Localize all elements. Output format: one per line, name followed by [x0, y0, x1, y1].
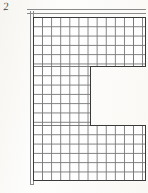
outline-top-edge	[33, 17, 146, 18]
grid-zone-middle-arm	[33, 66, 90, 126]
outline-notch-top-edge	[90, 66, 146, 67]
drawing-canvas: 2	[0, 0, 148, 193]
outline-right-lower-edge	[145, 125, 146, 181]
outline-right-upper-edge	[145, 17, 146, 67]
top-wall-outer-line	[27, 9, 146, 10]
left-wall-outer-line	[30, 11, 31, 185]
left-wall-foot-cap	[30, 184, 34, 185]
outline-left-edge	[33, 17, 34, 181]
outline-notch-left-edge	[90, 66, 91, 126]
outline-notch-bottom-edge	[90, 125, 146, 126]
figure-number-label: 2	[2, 1, 9, 13]
grid-zone-upper-band	[33, 17, 145, 67]
outline-bottom-edge	[33, 180, 146, 181]
top-wall-inner-line	[27, 13, 146, 14]
grid-zone-lower-band	[33, 125, 145, 180]
